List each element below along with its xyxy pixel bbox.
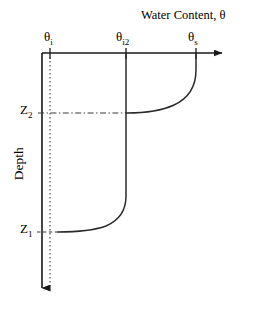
theta-subscript: i2 — [122, 37, 129, 47]
theta-subscript: i — [50, 37, 53, 47]
theta-subscript: s — [194, 37, 198, 47]
x-axis-tick-label-theta-s: θs — [188, 30, 198, 47]
z-subscript: 1 — [28, 229, 33, 239]
water-content-depth-profile-figure: Water Content, θ θi θi2 θs Z2 Z1 Depth — [0, 0, 261, 309]
water-content-profile-curve — [58, 53, 196, 232]
z-symbol: Z — [20, 221, 28, 236]
z-subscript: 2 — [28, 110, 33, 120]
z-symbol: Z — [20, 102, 28, 117]
plot-canvas — [0, 0, 261, 309]
y-axis-tick-label-z1: Z1 — [20, 222, 33, 239]
x-axis-tick-label-theta-i2: θi2 — [116, 30, 129, 47]
y-axis-tick-label-z2: Z2 — [20, 103, 33, 120]
y-axis-title-depth: Depth — [12, 136, 26, 192]
x-axis-tick-label-theta-i: θi — [44, 30, 53, 47]
chart-title: Water Content, θ — [141, 9, 225, 22]
